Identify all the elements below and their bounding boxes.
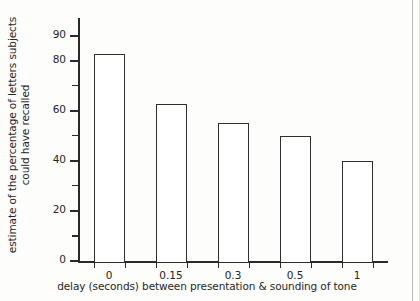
x-axis-tick-label: 0.15: [159, 269, 182, 281]
y-axis-tick-label: 80: [53, 53, 66, 65]
x-axis-tick-label: 1: [354, 269, 361, 281]
plot-area: 02040608090 00.150.30.51: [78, 18, 388, 262]
y-axis-tick-minor: [72, 185, 78, 187]
y-axis-tick-label: 90: [53, 28, 66, 40]
x-axis-tick-label: 0.3: [225, 269, 242, 281]
y-axis-tick-major: 80: [70, 60, 78, 62]
x-axis-tick: [342, 261, 344, 268]
y-axis-title-line-2: could have recalled: [19, 85, 32, 186]
y-axis-title-line-1: estimate of the percentage of letters su…: [6, 17, 19, 253]
x-axis-title: delay (seconds) between presentation & s…: [0, 280, 414, 292]
y-axis-tick-major: 0: [70, 260, 78, 262]
x-axis-tick: [94, 261, 96, 268]
y-axis-tick-label: 0: [59, 253, 66, 265]
x-axis-tick: [280, 261, 282, 268]
x-axis-tick: [249, 261, 251, 268]
x-axis-tick-label: 0: [106, 269, 113, 281]
x-axis-tick: [125, 261, 127, 268]
bar: [342, 161, 373, 262]
y-axis-tick-minor: [72, 135, 78, 137]
bar: [94, 54, 125, 262]
y-axis-tick-minor: [72, 85, 78, 87]
scan-edge-line: [412, 0, 413, 301]
bar: [156, 104, 187, 262]
y-axis-title: estimate of the percentage of letters su…: [0, 0, 38, 270]
y-axis-tick-major: 40: [70, 160, 78, 162]
bar-chart-figure: estimate of the percentage of letters su…: [0, 0, 420, 301]
x-axis-tick: [156, 261, 158, 268]
y-axis-tick-major: 20: [70, 210, 78, 212]
x-axis-tick: [218, 261, 220, 268]
x-axis-tick: [373, 261, 375, 268]
y-axis-tick-label: 60: [53, 103, 66, 115]
y-axis-tick-minor: [72, 235, 78, 237]
y-axis-tick-major: 90: [70, 35, 78, 37]
y-axis-tick-label: 20: [53, 203, 66, 215]
y-axis-line: [78, 18, 80, 263]
bar: [280, 136, 311, 262]
bar: [218, 123, 249, 262]
y-axis-tick-label: 40: [53, 153, 66, 165]
x-axis-tick: [311, 261, 313, 268]
x-axis-tick-label: 0.5: [287, 269, 304, 281]
y-axis-tick-major: 60: [70, 110, 78, 112]
x-axis-tick: [187, 261, 189, 268]
